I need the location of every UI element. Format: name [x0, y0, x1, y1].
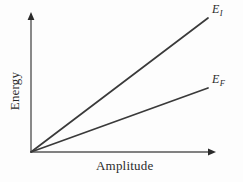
- series-label-ei: EI: [212, 2, 222, 17]
- energy-amplitude-figure: Amplitude Energy EI EF: [0, 0, 243, 182]
- series-label-ef: EF: [212, 72, 225, 87]
- series-label-ef-base: E: [212, 72, 219, 86]
- plot-area: [0, 0, 243, 182]
- y-axis-label: Energy: [7, 72, 23, 111]
- x-axis-arrow-icon: [208, 149, 216, 156]
- series-label-ei-subscript: I: [220, 8, 223, 18]
- series-label-ei-base: E: [212, 2, 219, 16]
- series-label-ef-subscript: F: [220, 78, 225, 88]
- y-axis-arrow-icon: [28, 12, 35, 20]
- series-line-ei: [31, 18, 208, 152]
- series-line-ef: [31, 88, 208, 152]
- x-axis-label: Amplitude: [96, 158, 153, 174]
